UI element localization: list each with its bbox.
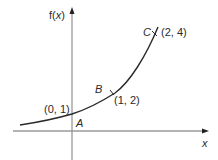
point-a-label: A xyxy=(76,118,83,129)
exponential-graph: f(x) x (0, 1) A B (1, 2) C (2, 4) xyxy=(0,0,218,160)
graph-canvas xyxy=(0,0,218,160)
exponential-curve xyxy=(20,27,158,125)
point-b-label: B xyxy=(95,84,102,95)
x-axis-label: x xyxy=(202,138,208,149)
point-b-coord: (1, 2) xyxy=(114,95,140,106)
y-axis-arrow-icon xyxy=(70,7,75,14)
y-label-prefix: f( xyxy=(49,9,56,21)
point-c-label: C xyxy=(143,27,151,38)
y-label-suffix: ) xyxy=(61,9,65,21)
y-axis-label: f(x) xyxy=(49,10,65,21)
x-axis-arrow-icon xyxy=(202,129,209,134)
point-a-coord: (0, 1) xyxy=(44,104,70,115)
point-c-coord: (2, 4) xyxy=(161,27,187,38)
